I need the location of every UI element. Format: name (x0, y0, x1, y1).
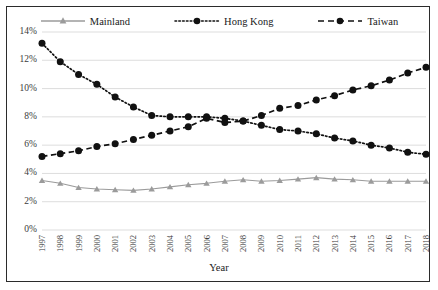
data-point (93, 143, 100, 150)
data-point (112, 140, 119, 147)
line-chart: Mainland Hong Kong Taiwan 0%2%4%6%8%10%1… (0, 0, 438, 290)
data-point (185, 123, 192, 130)
data-point (404, 149, 411, 156)
y-axis-tick-label: 12% (11, 54, 37, 64)
x-axis-tick-label: 2005 (183, 235, 193, 252)
x-axis-tick-label: 2008 (238, 235, 248, 252)
x-axis-tick-label: 1997 (37, 235, 47, 252)
x-axis-tick-label: 2001 (110, 235, 120, 252)
x-axis-tick-label: 2004 (165, 235, 175, 252)
data-point (349, 86, 356, 93)
data-point (112, 94, 119, 101)
x-axis-tick-label: 2014 (348, 235, 358, 252)
x-axis-tick-label: 2013 (330, 235, 340, 252)
data-point (130, 136, 137, 143)
y-axis-tick-label: 2% (11, 196, 37, 206)
y-axis-tick-label: 14% (11, 26, 37, 36)
x-axis-tick-label: 2011 (293, 235, 303, 252)
data-point (404, 70, 411, 77)
series-mainland (39, 175, 429, 193)
x-axis-tick-label: 2003 (147, 235, 157, 252)
data-point (148, 132, 155, 139)
x-axis-tick-label: 2018 (421, 235, 431, 252)
data-point (368, 82, 375, 89)
y-axis-tick-label: 6% (11, 139, 37, 149)
y-axis-tick-label: 0% (11, 224, 37, 234)
data-point (39, 40, 46, 47)
x-axis-tick-label: 1999 (74, 235, 84, 252)
data-point (93, 81, 100, 88)
data-point (349, 137, 356, 144)
data-point (130, 103, 137, 110)
data-point (57, 150, 64, 157)
x-axis-tick-label: 2002 (128, 235, 138, 252)
y-axis-tick-label: 10% (11, 83, 37, 93)
data-point (295, 128, 302, 135)
x-axis-tick-label: 1998 (55, 235, 65, 252)
series-hong-kong (39, 40, 430, 158)
x-axis-tick-label: 2012 (311, 235, 321, 252)
data-point (39, 153, 46, 160)
x-axis-tick-label: 2016 (384, 235, 394, 252)
data-point (75, 71, 82, 78)
data-point (57, 58, 64, 65)
x-axis-tick-label: 2007 (220, 235, 230, 252)
x-axis-tick-label: 2010 (275, 235, 285, 252)
data-point (331, 135, 338, 142)
data-point (258, 122, 265, 129)
data-point (258, 112, 265, 119)
data-point (221, 119, 228, 126)
data-point (148, 112, 155, 119)
data-point (386, 144, 393, 151)
data-point (331, 92, 338, 99)
data-point (185, 113, 192, 120)
data-point (313, 130, 320, 137)
data-point (423, 64, 430, 71)
data-point (276, 105, 283, 112)
data-point (423, 151, 430, 158)
data-point (276, 126, 283, 133)
data-point (240, 118, 247, 125)
x-axis-title: Year (0, 262, 438, 273)
x-axis-tick-label: 2000 (92, 235, 102, 252)
data-point (295, 102, 302, 109)
data-point (75, 147, 82, 154)
x-axis-tick-label: 2017 (403, 235, 413, 252)
data-point (39, 178, 45, 183)
data-point (203, 115, 210, 122)
data-point (313, 96, 320, 103)
x-axis-tick-label: 2006 (202, 235, 212, 252)
data-point (167, 128, 174, 135)
y-axis-tick-label: 4% (11, 167, 37, 177)
data-point (368, 142, 375, 149)
x-axis-tick-label: 2009 (256, 235, 266, 252)
data-point (386, 77, 393, 84)
data-point (167, 113, 174, 120)
x-axis-tick-label: 2015 (366, 235, 376, 252)
gridlines (42, 32, 426, 230)
y-axis-tick-label: 8% (11, 111, 37, 121)
